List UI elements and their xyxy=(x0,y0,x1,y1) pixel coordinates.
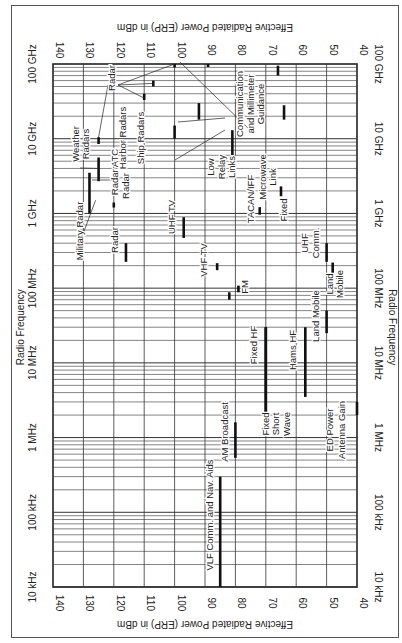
power-tick-bottom: 70 xyxy=(267,597,278,609)
power-tick-top: 100 xyxy=(176,42,187,59)
power-tick-bottom: 40 xyxy=(358,597,369,609)
annotation-label: ED Power xyxy=(324,409,335,452)
power-tick-bottom: 50 xyxy=(328,597,339,609)
power-tick-bottom: 110 xyxy=(145,595,156,611)
annotation-label: Hams HF xyxy=(287,330,298,370)
power-tick-top: 50 xyxy=(328,44,339,56)
freq-tick-right: 100 kHz xyxy=(373,494,384,531)
freq-tick-right: 10 GHz xyxy=(373,122,384,156)
power-tick-bottom: 120 xyxy=(115,595,126,612)
power-axis-title-top: Effective Radiated Power (ERP) in dBm xyxy=(117,22,293,33)
power-tick-top: 130 xyxy=(84,42,95,59)
annotation-label: UHF xyxy=(299,233,310,253)
power-tick-bottom: 90 xyxy=(206,597,217,609)
annotation-label: Link xyxy=(267,168,278,186)
power-axis-title-bottom: Effective Radiated Power (ERP) in dBm xyxy=(117,619,293,630)
power-tick-top: 140 xyxy=(54,42,65,59)
power-tick-bottom: 80 xyxy=(236,597,247,609)
annotation-label: VLF Comm. and Nav. Aids xyxy=(204,459,215,570)
annotation-label: Harbor Radars xyxy=(117,107,128,170)
freq-tick-left: 1 GHz xyxy=(27,199,38,227)
annotation-label: Low xyxy=(205,158,216,176)
freq-tick-left: 100 kHz xyxy=(27,494,38,531)
rf-power-chart: VLF Comm. and Nav. AidsAM BroadcastFixed… xyxy=(0,0,402,643)
annotation-label: Comm. xyxy=(310,228,321,259)
annotation-label: and Millimeter xyxy=(245,74,256,133)
annotation-label: Military Radar xyxy=(74,202,85,261)
freq-tick-left: 10 MHz xyxy=(27,346,38,380)
annotation-label: TACAN/IFF xyxy=(245,175,256,224)
annotation-label: Fixed xyxy=(278,198,289,221)
annotation-label: Relay xyxy=(216,155,227,180)
freq-tick-right: 10 MHz xyxy=(373,346,384,380)
freq-tick-right: 10 kHz xyxy=(373,571,384,602)
freq-tick-right: 1 MHz xyxy=(373,423,384,452)
annotation-label: Microwave xyxy=(257,154,268,199)
annotation-label: Short xyxy=(270,412,281,435)
freq-tick-right: 1 GHz xyxy=(373,199,384,227)
power-tick-top: 60 xyxy=(297,44,308,56)
annotation-label: Weather xyxy=(70,126,81,162)
annotation-label: Radar xyxy=(120,173,131,199)
freq-tick-left: 100 MHz xyxy=(27,268,38,308)
power-tick-top: 110 xyxy=(145,42,156,58)
power-tick-top: 90 xyxy=(206,44,217,56)
power-tick-top: 40 xyxy=(358,44,369,56)
annotation-label: VHF TV xyxy=(198,243,209,277)
leader-line xyxy=(178,118,225,122)
annotation-label: Radars xyxy=(80,128,91,159)
freq-axis-title-right: Radio Frequency xyxy=(387,289,398,365)
annotation-label: Land xyxy=(324,273,335,294)
power-tick-bottom: 100 xyxy=(176,595,187,612)
freq-tick-left: 10 kHz xyxy=(27,571,38,602)
annotation-label: Fixed xyxy=(260,412,271,435)
annotation-label: Antenna Gain xyxy=(336,401,347,459)
power-tick-bottom: 130 xyxy=(84,595,95,612)
annotation-label: Land Mobile xyxy=(310,290,321,342)
annotation-label: Mobile xyxy=(334,270,345,298)
annotation-label: AM Broadcast xyxy=(219,402,230,462)
power-tick-top: 80 xyxy=(236,44,247,56)
freq-tick-right: 100 MHz xyxy=(373,268,384,308)
freq-axis-title-left: Radio Frequency xyxy=(15,289,26,365)
annotation-label: Ship Radars xyxy=(135,112,146,165)
leader-line xyxy=(99,85,108,137)
annotation-label: Radar xyxy=(106,65,117,91)
annotation-label: Fixed HF xyxy=(248,326,259,365)
freq-tick-left: 100 GHz xyxy=(27,44,38,83)
annotation-label: Links xyxy=(226,156,237,178)
freq-tick-left: 1 MHz xyxy=(27,423,38,452)
power-tick-top: 120 xyxy=(115,42,126,59)
annotation-label: Wave xyxy=(281,412,292,436)
freq-tick-right: 100 GHz xyxy=(373,44,384,83)
annotation-label: Communication xyxy=(234,71,245,137)
annotation-label: Guidance xyxy=(255,84,266,125)
annotation-label: UHF TV xyxy=(166,199,177,234)
leader-line xyxy=(118,83,153,85)
power-tick-top: 70 xyxy=(267,44,278,56)
leader-line xyxy=(118,85,144,98)
power-tick-bottom: 140 xyxy=(54,595,65,612)
freq-tick-left: 10 GHz xyxy=(27,122,38,156)
annotation-label: Radar xyxy=(109,227,120,253)
annotation-label: FM xyxy=(239,280,250,294)
power-tick-bottom: 60 xyxy=(297,597,308,609)
